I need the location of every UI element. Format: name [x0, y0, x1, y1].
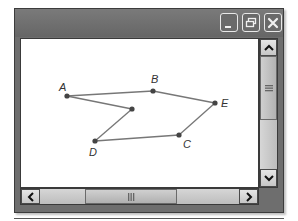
chevron-down-icon: [264, 174, 274, 182]
grip-vertical-icon: [126, 192, 136, 202]
point-label-A: A: [58, 81, 66, 93]
point-label-D: D: [89, 146, 97, 158]
scroll-right-button[interactable]: [239, 189, 258, 204]
polygon-diagram: ABECD: [21, 39, 258, 187]
point-unlabeled: [129, 106, 134, 111]
divider-line: [14, 218, 284, 219]
minimize-button[interactable]: [220, 13, 238, 32]
restore-button[interactable]: [242, 13, 260, 32]
scroll-left-button[interactable]: [21, 189, 40, 204]
close-button[interactable]: [264, 13, 282, 32]
app-window: ABECD: [14, 8, 284, 213]
restore-icon: [245, 17, 257, 29]
segment-CD: [95, 135, 179, 141]
chevron-up-icon: [264, 44, 274, 52]
title-bar[interactable]: [15, 9, 283, 37]
segment-PA: [67, 96, 132, 109]
canvas-area[interactable]: ABECD: [20, 38, 259, 188]
scroll-down-button[interactable]: [260, 169, 277, 187]
scroll-up-button[interactable]: [260, 39, 277, 56]
segment-BE: [153, 91, 215, 103]
segment-DP: [95, 109, 132, 141]
point-label-E: E: [221, 97, 229, 109]
grip-horizontal-icon: [264, 83, 274, 93]
minimize-icon: [223, 17, 235, 29]
segment-EC: [179, 103, 215, 135]
chevron-left-icon: [27, 192, 35, 202]
point-A: [64, 93, 69, 98]
close-icon: [267, 17, 279, 29]
point-B: [150, 88, 155, 93]
point-D: [92, 138, 97, 143]
chevron-right-icon: [245, 192, 253, 202]
horizontal-scroll-thumb[interactable]: [85, 189, 177, 204]
vertical-scroll-thumb[interactable]: [260, 56, 277, 120]
point-label-B: B: [151, 73, 158, 85]
vertical-scrollbar[interactable]: [259, 38, 278, 188]
point-label-C: C: [183, 138, 191, 150]
segment-AB: [67, 91, 153, 96]
point-E: [212, 100, 217, 105]
point-C: [176, 132, 181, 137]
horizontal-scrollbar[interactable]: [20, 188, 259, 205]
